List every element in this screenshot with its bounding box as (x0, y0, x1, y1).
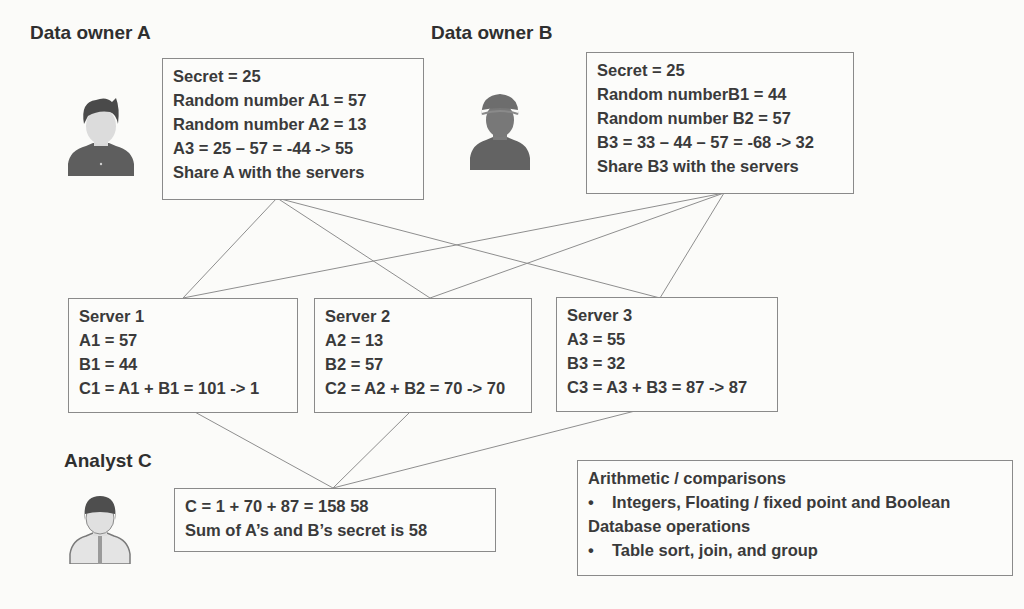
connector-b-server1 (183, 193, 724, 298)
connector-b-server2 (430, 193, 724, 298)
person-with-tie-icon (68, 492, 132, 564)
analyst-result: Sum of A’s and B’s secret is 58 (185, 518, 485, 542)
owner-b-random-b1: Random numberB1 = 44 (597, 82, 843, 106)
capabilities-box: Arithmetic / comparisons •Integers, Floa… (577, 460, 1013, 576)
server-2-title: Server 2 (325, 304, 521, 328)
capability-numeric-types-text: Integers, Floating / fixed point and Boo… (612, 493, 950, 511)
capability-bullet-numeric-types: •Integers, Floating / fixed point and Bo… (588, 490, 1002, 514)
analyst-title: Analyst C (64, 450, 152, 472)
server-3-box: Server 3 A3 = 55 B3 = 32 C3 = A3 + B3 = … (556, 297, 778, 412)
server-1-title: Server 1 (79, 304, 287, 328)
owner-b-b3-calc: B3 = 33 – 44 – 57 = -68 -> 32 (597, 130, 843, 154)
owner-a-random-a2: Random number A2 = 13 (173, 112, 413, 136)
owner-b-box: Secret = 25 Random numberB1 = 44 Random … (586, 52, 854, 194)
server-1-c1: C1 = A1 + B1 = 101 -> 1 (79, 376, 287, 400)
owner-a-share-note: Share A with the servers (173, 160, 413, 184)
bullet-icon: • (588, 538, 612, 562)
capability-heading-arithmetic: Arithmetic / comparisons (588, 466, 1002, 490)
server-1-box: Server 1 A1 = 57 B1 = 44 C1 = A1 + B1 = … (68, 298, 298, 413)
analyst-box: C = 1 + 70 + 87 = 158 58 Sum of A’s and … (174, 488, 496, 552)
owner-b-random-b2: Random number B2 = 57 (597, 106, 843, 130)
owner-a-box: Secret = 25 Random number A1 = 57 Random… (162, 58, 424, 200)
connector-b-server3 (660, 193, 724, 298)
server-2-c2: C2 = A2 + B2 = 70 -> 70 (325, 376, 521, 400)
server-3-title: Server 3 (567, 303, 767, 327)
capability-heading-database: Database operations (588, 514, 1002, 538)
owner-b-secret: Secret = 25 (597, 58, 843, 82)
capability-table-ops-text: Table sort, join, and group (612, 541, 818, 559)
server-2-a2: A2 = 13 (325, 328, 521, 352)
connector-a-server3 (277, 198, 660, 298)
server-1-a1: A1 = 57 (79, 328, 287, 352)
connector-a-server2 (277, 198, 430, 298)
capability-bullet-table-ops: •Table sort, join, and group (588, 538, 1002, 562)
owner-a-secret: Secret = 25 (173, 64, 413, 88)
person-with-helmet-icon (468, 88, 532, 170)
owner-a-a3-calc: A3 = 25 – 57 = -44 -> 55 (173, 136, 413, 160)
bullet-icon: • (588, 490, 612, 514)
server-1-b1: B1 = 44 (79, 352, 287, 376)
server-3-c3: C3 = A3 + B3 = 87 -> 87 (567, 375, 767, 399)
connector-server1-analyst (193, 411, 333, 488)
server-3-a3: A3 = 55 (567, 327, 767, 351)
server-2-b2: B2 = 57 (325, 352, 521, 376)
connector-server2-analyst (333, 411, 411, 488)
owner-b-title: Data owner B (431, 22, 552, 44)
server-3-b3: B3 = 32 (567, 351, 767, 375)
owner-a-random-a1: Random number A1 = 57 (173, 88, 413, 112)
owner-b-share-note: Share B3 with the servers (597, 154, 843, 178)
server-2-box: Server 2 A2 = 13 B2 = 57 C2 = A2 + B2 = … (314, 298, 532, 413)
analyst-sum-calc: C = 1 + 70 + 87 = 158 58 (185, 494, 485, 518)
person-icon (66, 94, 136, 176)
owner-a-title: Data owner A (30, 22, 151, 44)
